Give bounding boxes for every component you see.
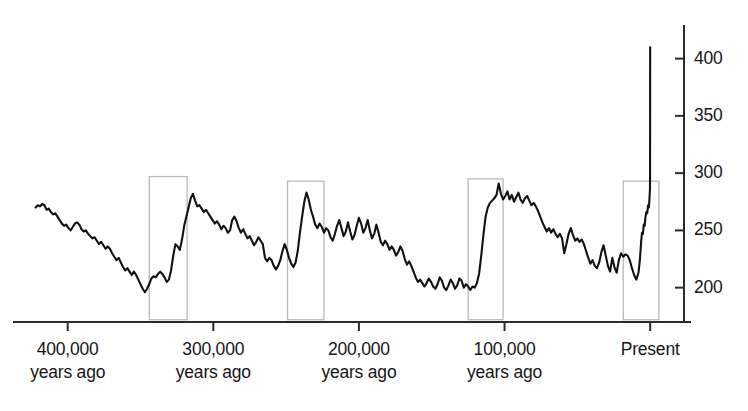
y-tick-label-0: 200 — [694, 277, 723, 298]
x-tick-label-primary: 200,000 — [328, 339, 390, 359]
y-tick-label-1: 250 — [694, 219, 723, 240]
x-tick-label-primary: 100,000 — [474, 339, 536, 359]
highlight-box-group — [149, 177, 659, 320]
data-series-group — [36, 47, 651, 292]
x-tick-label-secondary: years ago — [430, 361, 580, 384]
x-tick-label-1: 300,000years ago — [138, 338, 288, 384]
x-tick-label-primary: 300,000 — [182, 339, 244, 359]
y-tick-label-3: 350 — [694, 105, 723, 126]
x-tick-label-secondary: years ago — [0, 361, 143, 384]
x-tick-label-secondary: years ago — [284, 361, 434, 384]
highlight-box-glacial-termination-3 — [288, 181, 324, 320]
data-line-0 — [36, 47, 651, 292]
x-tick-label-3: 100,000years ago — [430, 338, 580, 384]
y-tick-label-4: 400 — [694, 48, 723, 69]
co2-ice-core-chart: 400,000years ago300,000years ago200,000y… — [0, 0, 748, 411]
x-tick-label-secondary: years ago — [138, 361, 288, 384]
highlight-box-glacial-termination-4 — [149, 177, 187, 320]
x-tick-label-primary: Present — [621, 339, 680, 359]
y-tick-label-2: 300 — [694, 162, 723, 183]
axis-group — [14, 26, 690, 331]
highlight-box-glacial-termination-2 — [468, 179, 503, 320]
x-tick-label-primary: 400,000 — [37, 339, 99, 359]
x-tick-label-0: 400,000years ago — [0, 338, 143, 384]
x-tick-label-2: 200,000years ago — [284, 338, 434, 384]
x-tick-label-4: Present — [575, 338, 725, 361]
